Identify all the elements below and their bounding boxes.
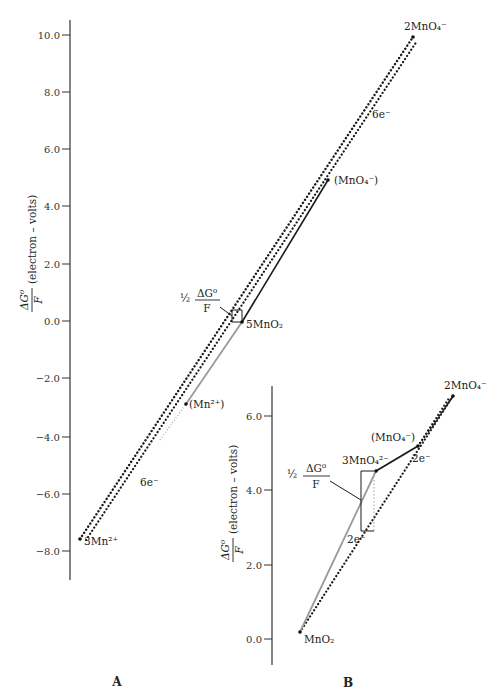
point-mn2plus bbox=[184, 402, 188, 406]
svg-text:F: F bbox=[32, 296, 44, 305]
half-delta-g-label-b: ½ ΔG⁰ F bbox=[287, 462, 330, 490]
label-2e-upper: 2e⁻ bbox=[412, 452, 430, 464]
svg-text:F: F bbox=[233, 546, 245, 555]
label-mno2: MnO₂ bbox=[304, 633, 334, 645]
tick-label: 4.0 bbox=[246, 485, 262, 496]
svg-text:½: ½ bbox=[287, 468, 297, 480]
tick-label: 6.0 bbox=[44, 144, 60, 155]
label-mno4-paren-b: (MnO₄⁻) bbox=[371, 431, 415, 443]
tick-label: 2.0 bbox=[44, 259, 60, 270]
svg-text:(electron – volts): (electron – volts) bbox=[26, 195, 38, 284]
svg-text:F: F bbox=[203, 302, 210, 314]
label-3mn2plus: 3Mn²⁺ bbox=[84, 535, 118, 547]
svg-text:F: F bbox=[312, 478, 319, 490]
tick-label: −8.0 bbox=[36, 546, 60, 557]
label-6e-upper: 6e⁻ bbox=[372, 108, 390, 120]
svg-text:ΔG⁰: ΔG⁰ bbox=[219, 539, 231, 561]
svg-text:½: ½ bbox=[180, 292, 190, 304]
label-2mno4-b: 2MnO₄⁻ bbox=[444, 379, 487, 391]
label-mno4-paren: (MnO₄⁻) bbox=[334, 174, 378, 186]
point-mno4-paren-b bbox=[416, 444, 420, 448]
y-axis-label-b: ΔG⁰ F (electron – volts) bbox=[219, 445, 245, 562]
label-6e-lower: 6e⁻ bbox=[140, 476, 158, 488]
gray-line-mn2-mno2 bbox=[186, 322, 242, 404]
tick-label: −2.0 bbox=[36, 373, 60, 384]
bracket-leader-b bbox=[330, 481, 361, 500]
tick-label: 4.0 bbox=[44, 201, 60, 212]
tick-label: 6.0 bbox=[246, 411, 262, 422]
y-axis-label-a: ΔG⁰ F (electron – volts) bbox=[18, 195, 44, 312]
point-mno4-paren bbox=[326, 178, 330, 182]
label-mn2plus: (Mn²⁺) bbox=[189, 398, 224, 410]
point-mno2 bbox=[298, 630, 302, 634]
tick-label: 0.0 bbox=[246, 634, 262, 645]
tick-label: 2.0 bbox=[246, 560, 262, 571]
label-2e-lower: 2e⁻ bbox=[347, 533, 365, 545]
label-3mno4-2minus: 3MnO₄²⁻ bbox=[342, 454, 389, 466]
point-3mno4-2minus bbox=[374, 469, 378, 473]
point-3mn2plus bbox=[78, 537, 82, 541]
point-2mno4-b bbox=[451, 394, 455, 398]
dotted-line-mno4-2mno4-b bbox=[418, 398, 449, 446]
svg-text:ΔG⁰: ΔG⁰ bbox=[306, 462, 326, 474]
svg-text:(electron – volts): (electron – volts) bbox=[227, 445, 239, 534]
tick-label: 8.0 bbox=[44, 87, 60, 98]
svg-text:ΔG⁰: ΔG⁰ bbox=[197, 287, 217, 299]
panel-a: 10.0 8.0 6.0 4.0 2.0 0.0 −2.0 −4.0 −6.0 … bbox=[18, 20, 447, 689]
panel-b: 6.0 4.0 2.0 0.0 ΔG⁰ F (electron – volts) bbox=[219, 379, 487, 690]
panel-label-b: B bbox=[343, 676, 353, 690]
label-5mno2: 5MnO₂ bbox=[246, 318, 283, 330]
y-ticks-b: 6.0 4.0 2.0 0.0 bbox=[246, 411, 272, 645]
black-line-mno2-mno4 bbox=[242, 180, 328, 322]
bracket-leader-a bbox=[220, 307, 232, 316]
y-ticks-a: 10.0 8.0 6.0 4.0 2.0 0.0 −2.0 −4.0 −6.0 … bbox=[36, 30, 70, 557]
tick-label: 10.0 bbox=[38, 30, 60, 41]
dotted-line-mno4-2mno4 bbox=[418, 396, 453, 446]
label-2mno4: 2MnO₄⁻ bbox=[404, 20, 447, 32]
point-5mno2 bbox=[240, 320, 244, 324]
svg-text:ΔG⁰: ΔG⁰ bbox=[18, 289, 30, 311]
point-2mno4 bbox=[411, 35, 415, 39]
half-delta-g-label-a: ½ ΔG⁰ F bbox=[180, 287, 220, 314]
panel-label-a: A bbox=[111, 675, 122, 689]
tick-label: −6.0 bbox=[36, 489, 60, 500]
tick-label: −4.0 bbox=[36, 432, 60, 443]
tick-label: 0.0 bbox=[44, 316, 60, 327]
figure-canvas: 10.0 8.0 6.0 4.0 2.0 0.0 −2.0 −4.0 −6.0 … bbox=[0, 0, 504, 700]
gray-line-mno2-mno4-2 bbox=[300, 471, 376, 632]
